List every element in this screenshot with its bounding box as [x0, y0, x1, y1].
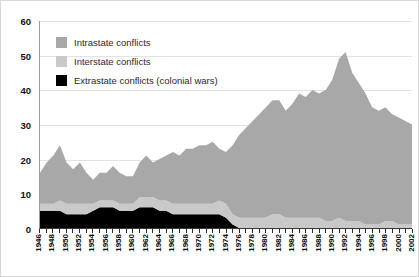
conflicts-area-chart: 0102030405060 Intrastate conflicts Inter… — [0, 0, 419, 277]
x-axis-tick — [166, 229, 167, 233]
x-axis-tick-label: 1994 — [355, 234, 363, 252]
x-axis-tick — [179, 229, 180, 233]
x-axis-tick-label: 1990 — [328, 234, 336, 252]
x-axis-tick — [265, 229, 266, 233]
x-axis-tick-label: 1958 — [115, 234, 123, 252]
x-axis-tick — [212, 229, 213, 233]
x-axis-tick-label: 1966 — [168, 234, 176, 252]
y-axis-tick-label: 20 — [20, 154, 31, 165]
x-axis-tick — [72, 229, 73, 233]
x-axis-tick — [259, 229, 260, 233]
x-axis-tick-label: 1962 — [142, 234, 150, 252]
x-axis-tick — [339, 229, 340, 233]
x-axis-tick-label: 1946 — [35, 234, 43, 252]
x-axis-tick-label: 1954 — [88, 234, 96, 252]
x-axis-tick — [252, 229, 253, 233]
x-axis-tick — [319, 229, 320, 233]
x-axis-tick — [332, 229, 333, 233]
x-axis-tick — [159, 229, 160, 233]
x-axis-tick — [379, 229, 380, 233]
x-axis-tick — [192, 229, 193, 233]
y-axis-tick-label: 30 — [20, 120, 31, 131]
x-axis-tick-label: 1978 — [248, 234, 256, 252]
x-axis-tick — [152, 229, 153, 233]
x-axis-tick — [239, 229, 240, 233]
x-axis-tick — [359, 229, 360, 233]
x-axis-tick — [385, 229, 386, 233]
x-axis-tick — [219, 229, 220, 233]
x-axis-tick-label: 1980 — [261, 234, 269, 252]
x-axis-tick-label: 1960 — [128, 234, 136, 252]
x-axis-tick — [305, 229, 306, 233]
x-axis-tick — [99, 229, 100, 233]
legend-swatch-icon — [56, 37, 67, 48]
x-axis-tick-label: 1956 — [102, 234, 110, 252]
legend-swatch-icon — [56, 56, 67, 67]
legend-item-label: Interstate conflicts — [74, 56, 151, 67]
x-axis-tick-label: 1984 — [288, 234, 296, 252]
x-axis-tick — [299, 229, 300, 233]
x-axis-tick — [325, 229, 326, 233]
x-axis-tick-label: 1988 — [315, 234, 323, 252]
y-axis-tick-label: 60 — [20, 16, 31, 27]
x-axis-tick — [405, 229, 406, 233]
x-axis-tick — [139, 229, 140, 233]
chart-legend: Intrastate conflicts Interstate conflict… — [56, 34, 218, 91]
x-axis-tick-label: 1976 — [235, 234, 243, 252]
x-axis-tick — [66, 229, 67, 233]
y-axis-tick-label: 40 — [20, 85, 31, 96]
legend-item: Intrastate conflicts — [56, 34, 218, 50]
y-axis: 0102030405060 — [1, 21, 35, 229]
x-axis-tick-label: 1968 — [182, 234, 190, 252]
x-axis-tick — [79, 229, 80, 233]
x-axis-tick-label: 1974 — [222, 234, 230, 252]
x-axis-tick — [206, 229, 207, 233]
x-axis-tick-label: 1952 — [75, 234, 83, 252]
x-axis-tick — [285, 229, 286, 233]
x-axis-tick — [172, 229, 173, 233]
x-axis-tick — [52, 229, 53, 233]
legend-item-label: Intrastate conflicts — [74, 37, 151, 48]
x-axis-tick-label: 1982 — [275, 234, 283, 252]
x-axis-tick-label: 1948 — [48, 234, 56, 252]
legend-item: Interstate conflicts — [56, 53, 218, 69]
x-axis-tick — [399, 229, 400, 233]
x-axis-tick — [46, 229, 47, 233]
x-axis-tick — [392, 229, 393, 233]
x-axis-tick — [186, 229, 187, 233]
y-axis-tick-label: 50 — [20, 50, 31, 61]
x-axis-tick — [119, 229, 120, 233]
x-axis-tick — [92, 229, 93, 233]
legend-swatch-icon — [56, 75, 67, 86]
x-axis-tick — [146, 229, 147, 233]
x-axis-tick — [86, 229, 87, 233]
x-axis-tick-label: 1970 — [195, 234, 203, 252]
x-axis-tick-label: 1992 — [341, 234, 349, 252]
legend-item-label: Extrastate conflicts (colonial wars) — [74, 75, 218, 86]
x-axis-tick — [352, 229, 353, 233]
x-axis-tick — [372, 229, 373, 233]
x-axis-tick — [312, 229, 313, 233]
x-axis-tick — [226, 229, 227, 233]
x-axis-tick-label: 2000 — [395, 234, 403, 252]
y-axis-tick-label: 0 — [26, 224, 31, 235]
x-axis-tick-label: 1972 — [208, 234, 216, 252]
x-axis-tick-label: 1996 — [368, 234, 376, 252]
x-axis-tick — [59, 229, 60, 233]
x-axis-tick — [292, 229, 293, 233]
x-axis-tick — [106, 229, 107, 233]
x-axis-tick-label: 1950 — [62, 234, 70, 252]
x-axis-tick — [39, 229, 40, 233]
x-axis-tick — [245, 229, 246, 233]
x-axis-tick — [365, 229, 366, 233]
x-axis-tick — [345, 229, 346, 233]
x-axis-tick-label: 1998 — [381, 234, 389, 252]
x-axis: 1946194819501952195419561958196019621964… — [39, 229, 412, 277]
y-axis-tick-label: 10 — [20, 189, 31, 200]
x-axis-tick — [272, 229, 273, 233]
x-axis-tick — [199, 229, 200, 233]
x-axis-tick — [126, 229, 127, 233]
legend-item: Extrastate conflicts (colonial wars) — [56, 72, 218, 88]
x-axis-tick-label: 1986 — [301, 234, 309, 252]
x-axis-tick-label: 1964 — [155, 234, 163, 252]
